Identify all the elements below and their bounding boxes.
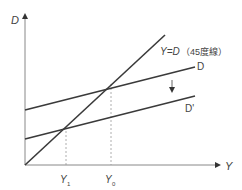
d-line <box>25 67 195 110</box>
d-prime-line <box>25 96 195 139</box>
y-axis-label: D <box>11 14 19 26</box>
x-axis-label: Y <box>225 160 233 172</box>
forty-five-degree-line <box>25 35 165 165</box>
keynesian-cross-diagram: D Y Y=D （45度線） D D' Y 1 Y 0 <box>0 0 242 190</box>
forty-five-line-note: （45度線） <box>181 46 227 57</box>
tick-label-y1: Y 1 <box>60 174 71 187</box>
tick-label-y0: Y 0 <box>105 174 116 187</box>
forty-five-line-label: Y=D <box>160 46 180 57</box>
d-line-label: D <box>197 61 204 72</box>
svg-text:1: 1 <box>67 181 71 187</box>
d-prime-line-label: D' <box>185 103 194 114</box>
svg-text:0: 0 <box>112 181 116 187</box>
